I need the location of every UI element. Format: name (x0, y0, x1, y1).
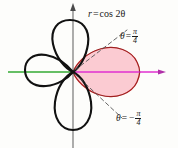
angle-label-positive: θ=π4 (120, 28, 138, 46)
polar-rose-figure: r=cos 2θ θ=π4 θ=−π4 (0, 0, 178, 148)
angle-negative-fraction: π4 (135, 110, 141, 128)
polar-plot-canvas (0, 0, 178, 148)
angle-positive-equals: = (125, 31, 132, 41)
horizontal-axis-arrowhead (158, 69, 166, 74)
angle-label-negative: θ=−π4 (116, 110, 141, 128)
angle-positive-variable: θ (120, 31, 125, 41)
angle-negative-denominator: 4 (135, 118, 141, 127)
angle-positive-fraction: π4 (132, 28, 138, 46)
vertical-axis-arrowhead (70, 3, 76, 11)
angle-positive-numerator: π (132, 28, 138, 36)
angle-positive-denominator: 4 (132, 36, 138, 45)
rose-petal-left (25, 55, 73, 86)
angle-negative-variable: θ (116, 113, 121, 123)
angle-negative-equals: = (121, 113, 128, 123)
equation-expression: cos 2θ (100, 8, 126, 19)
angle-negative-numerator: π (135, 110, 141, 118)
equation-label: r=cos 2θ (88, 9, 125, 19)
angle-negative-sign: − (128, 113, 135, 123)
equation-equals: = (92, 8, 100, 19)
